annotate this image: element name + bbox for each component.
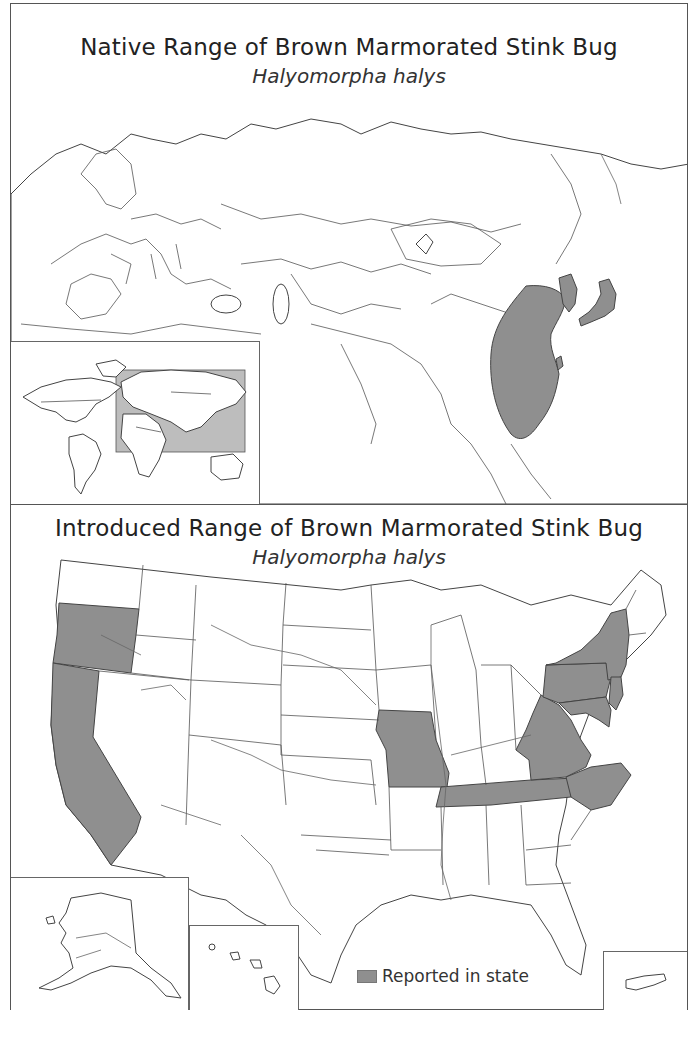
state-oregon	[53, 603, 139, 673]
figure-frame: Native Range of Brown Marmorated Stink B…	[10, 3, 688, 1010]
native-map-subtitle: Halyomorpha halys	[11, 64, 687, 88]
world-map	[11, 342, 260, 504]
puerto-rico-inset	[603, 951, 687, 1010]
legend-label: Reported in state	[382, 966, 529, 986]
legend-swatch-reported	[357, 970, 377, 983]
native-range-panel: Native Range of Brown Marmorated Stink B…	[11, 4, 687, 504]
state-pennsylvania	[543, 663, 611, 703]
puerto-rico-map	[604, 952, 687, 1010]
map-legend: Reported in state	[357, 966, 529, 986]
alaska-map	[11, 878, 189, 1010]
world-locator-inset	[11, 341, 260, 504]
hawaii-map	[190, 926, 299, 1010]
introduced-map-subtitle: Halyomorpha halys	[11, 545, 687, 569]
alaska-inset	[11, 877, 189, 1010]
hawaii-inset	[189, 925, 299, 1010]
native-map-title: Native Range of Brown Marmorated Stink B…	[11, 34, 687, 60]
introduced-range-panel: Introduced Range of Brown Marmorated Sti…	[11, 504, 687, 1010]
state-new-jersey	[609, 677, 623, 710]
introduced-map-title: Introduced Range of Brown Marmorated Sti…	[11, 515, 687, 541]
